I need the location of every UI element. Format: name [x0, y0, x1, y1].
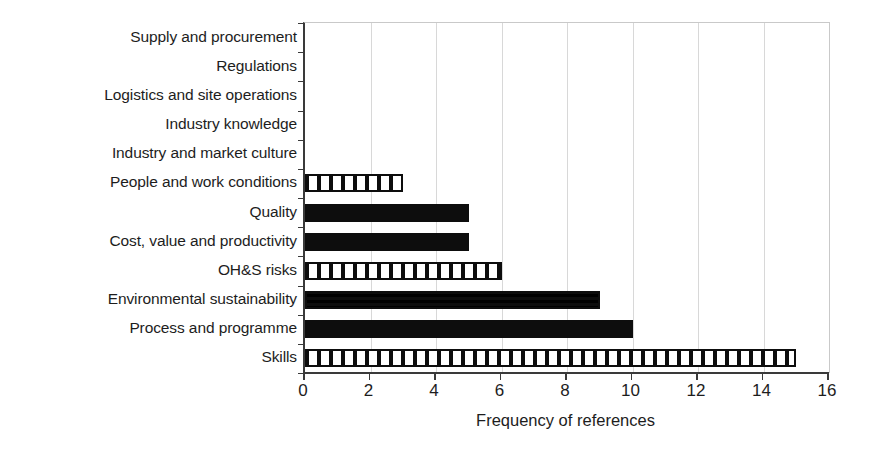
category-axis-tick [298, 169, 305, 170]
category-label: Industry knowledge [0, 116, 297, 132]
category-axis-tick [298, 286, 305, 287]
bar-chart: Supply and procurementRegulationsLogisti… [0, 0, 875, 457]
x-axis-tick-label: 14 [732, 381, 792, 401]
bar [305, 291, 600, 309]
category-axis-tick [298, 81, 305, 82]
gridline [698, 23, 699, 373]
x-axis-tick [369, 372, 371, 380]
category-label: Skills [0, 349, 297, 365]
category-axis-tick [298, 140, 305, 141]
bar [305, 262, 502, 280]
x-axis-tick-label: 0 [273, 381, 333, 401]
x-axis-tick-label: 2 [339, 381, 399, 401]
category-axis-tick [298, 198, 305, 199]
x-axis-tick-label: 8 [535, 381, 595, 401]
category-label: Environmental sustainability [0, 291, 297, 307]
plot-area [303, 22, 830, 373]
x-axis-tick-label: 12 [666, 381, 726, 401]
x-axis-title: Frequency of references [303, 411, 828, 430]
category-label: Industry and market culture [0, 145, 297, 161]
category-label: People and work conditions [0, 174, 297, 190]
category-axis-tick [298, 52, 305, 53]
x-axis-tick [696, 372, 698, 380]
category-label: Cost, value and productivity [0, 233, 297, 249]
bar [305, 174, 403, 192]
x-axis-tick-label: 6 [470, 381, 530, 401]
category-axis-tick [298, 315, 305, 316]
category-axis-tick [298, 23, 305, 24]
bar [305, 349, 796, 367]
x-axis-tick-label: 10 [601, 381, 661, 401]
category-label: Quality [0, 204, 297, 220]
x-axis-tick-label: 16 [797, 381, 857, 401]
category-label: Regulations [0, 58, 297, 74]
bar [305, 320, 633, 338]
gridline [633, 23, 634, 373]
category-axis-tick [298, 256, 305, 257]
category-label: Process and programme [0, 320, 297, 336]
x-axis-tick [434, 372, 436, 380]
category-label: Logistics and site operations [0, 87, 297, 103]
bar [305, 204, 469, 222]
category-label: Supply and procurement [0, 29, 297, 45]
category-axis-tick [298, 111, 305, 112]
x-axis-tick [762, 372, 764, 380]
x-axis-tick-label: 4 [404, 381, 464, 401]
x-axis-tick [303, 372, 305, 380]
category-axis-tick [298, 344, 305, 345]
category-label: OH&S risks [0, 262, 297, 278]
bar [305, 233, 469, 251]
x-axis-tick [631, 372, 633, 380]
x-axis-tick [827, 372, 829, 380]
x-axis-tick [565, 372, 567, 380]
category-axis-tick [298, 227, 305, 228]
x-axis-tick [500, 372, 502, 380]
gridline [764, 23, 765, 373]
category-axis: Supply and procurementRegulationsLogisti… [0, 22, 297, 372]
